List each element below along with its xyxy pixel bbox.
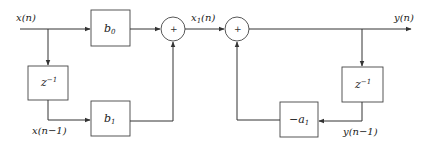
adder-1: + [161, 17, 185, 41]
adder1-plus-symbol: + [170, 24, 178, 34]
wire-delay-right-to-neg-a1 [319, 102, 362, 121]
delay-left-superscript: −1 [47, 76, 57, 84]
delay-left-block: z−1 [28, 66, 68, 100]
b0-subscript: 0 [111, 28, 116, 36]
output-delayed-label: y(n−1) [342, 126, 378, 137]
neg-a1-label: −a [289, 113, 305, 126]
output-signal-label: y(n) [393, 12, 414, 23]
delay-right-superscript: −1 [361, 78, 371, 86]
wire-neg-a1-to-adder2 [237, 42, 280, 120]
b1-coefficient-block: b1 [91, 101, 130, 136]
wire-b1-to-adder1 [130, 42, 173, 121]
intermediate-signal-label: x1(n) [191, 12, 215, 25]
wire-delay-left-to-b1 [48, 100, 90, 120]
b1-label: b [104, 112, 111, 125]
adder-2: + [225, 17, 249, 41]
neg-a1-subscript: 1 [305, 119, 309, 127]
b1-subscript: 1 [111, 118, 115, 126]
input-signal-label: x(n) [16, 12, 36, 23]
delay-right-block: z−1 [342, 67, 383, 102]
adder2-plus-symbol: + [234, 24, 242, 34]
input-delayed-label: x(n−1) [32, 125, 67, 136]
neg-a1-coefficient-block: −a1 [280, 102, 318, 137]
b0-coefficient-block: b0 [91, 10, 130, 46]
filter-block-diagram: x(n) b0 + x1(n) + y(n) z−1 x(n−1) b1 [0, 0, 429, 148]
b0-label: b [104, 22, 111, 35]
